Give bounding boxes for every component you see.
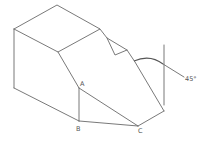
- isometric-block-drawing: A B C 45°: [0, 0, 206, 141]
- top-face-edges: [14, 5, 100, 52]
- bottom-right-edge: [138, 111, 164, 126]
- right-profile-edge: [100, 29, 164, 111]
- label-a: A: [80, 80, 85, 88]
- edge-b-c: [79, 121, 138, 126]
- label-angle: 45°: [185, 75, 197, 83]
- left-bottom-edge: [14, 88, 79, 121]
- angle-leader-line: [163, 64, 184, 77]
- edge-a-c: [79, 88, 138, 126]
- notch-edges: [107, 38, 127, 55]
- diagram-canvas: A B C 45°: [0, 0, 206, 141]
- label-b: B: [76, 125, 80, 133]
- front-slope-edge: [58, 52, 79, 88]
- label-c: C: [138, 127, 143, 135]
- angle-arc: [134, 58, 163, 64]
